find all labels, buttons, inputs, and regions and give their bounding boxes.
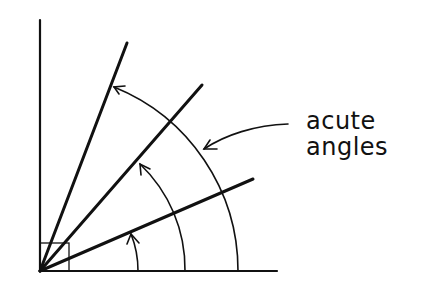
ray-middle <box>40 85 202 271</box>
label-line-2: angles <box>306 134 388 161</box>
label-line-1: acute <box>306 108 376 135</box>
pointer-arrow <box>204 124 288 149</box>
ray-steep <box>40 43 127 271</box>
ray-shallow <box>40 179 253 271</box>
